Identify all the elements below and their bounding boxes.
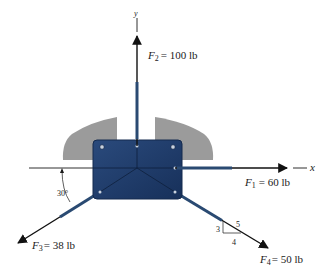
y-axis-label: y [133,9,138,18]
svg-text:3: 3 [216,225,220,234]
x-axis-label: x [309,161,315,173]
f4-label: F4= 50 lb [259,253,303,267]
svg-text:30°: 30° [57,189,68,198]
force-diagram: x y 30° 3 4 5 F2= 100 lb F1= 60 lb F3= 3… [0,0,334,276]
angle-annotation: 30° [57,168,70,202]
f3-label: F3= 38 lb [31,239,75,253]
force-f4-arrow [175,192,268,248]
f2-label: F2= 100 lb [147,49,198,63]
force-f3-arrow [18,192,100,243]
svg-text:5: 5 [236,220,240,229]
plate [93,140,182,199]
f1-label: F1= 60 lb [244,176,290,190]
svg-text:4: 4 [232,238,236,247]
